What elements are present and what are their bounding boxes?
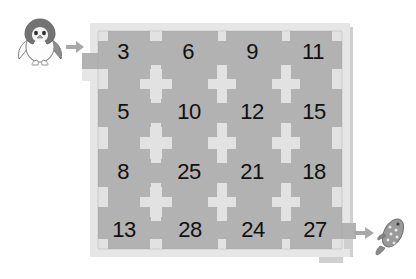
fish-icon [374,216,408,256]
penguin-icon [12,14,68,68]
maze-puzzle-canvas: 3 6 9 11 5 10 12 15 8 25 21 18 13 28 24 … [0,0,416,279]
maze-grid: 3 6 9 11 5 10 12 15 8 25 21 18 13 28 24 … [82,17,356,263]
arrow-right-icon [354,226,374,240]
